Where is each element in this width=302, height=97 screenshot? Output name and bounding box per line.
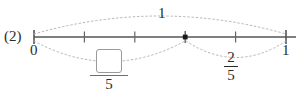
arc-label-whole: 1 bbox=[158, 6, 166, 21]
fraction-denominator: 5 bbox=[227, 67, 235, 83]
number-line-exercise: (2) 0 1 1 5 2 5 bbox=[0, 0, 302, 97]
point-marker-3-5 bbox=[183, 35, 188, 40]
axis-label-zero: 0 bbox=[30, 43, 38, 58]
fraction-two-fifths: 2 5 bbox=[224, 50, 238, 83]
answer-input-box[interactable] bbox=[96, 49, 122, 73]
axis-label-one: 1 bbox=[282, 43, 290, 58]
fraction-numerator: 2 bbox=[227, 50, 235, 66]
answer-fraction: 5 bbox=[90, 49, 128, 92]
answer-fraction-denominator: 5 bbox=[105, 76, 113, 92]
number-line-graphic bbox=[0, 0, 302, 97]
